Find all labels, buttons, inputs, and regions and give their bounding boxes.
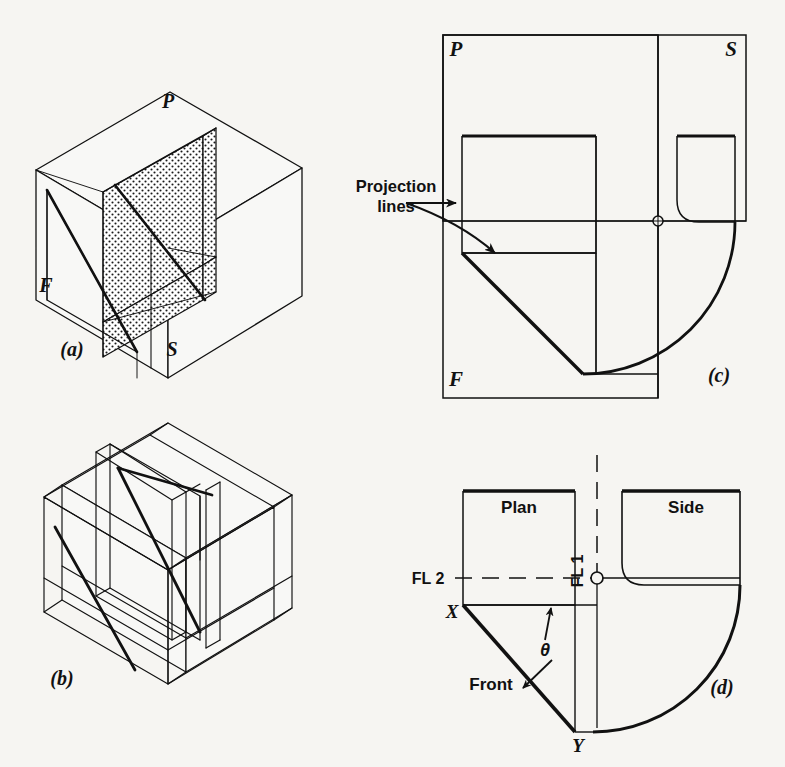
projection-lines-text-2: lines	[377, 197, 415, 215]
projection-lines-text-1: Projection	[356, 177, 437, 195]
page-background	[0, 0, 785, 767]
panel-a-label-F: F	[38, 274, 53, 296]
panel-c-label-S: S	[725, 37, 737, 61]
panel-d-side-label: Side	[668, 498, 704, 517]
panel-d-caption: (d)	[710, 676, 733, 699]
panel-b-caption: (b)	[50, 667, 73, 690]
panel-c-label-P: P	[449, 37, 463, 61]
panel-d-pivot-point	[591, 572, 603, 584]
panel-a-caption: (a)	[60, 338, 83, 361]
panel-c-label-F: F	[448, 367, 463, 391]
panel-d-front-label: Front	[469, 675, 513, 694]
panel-a-label-S: S	[166, 338, 177, 360]
panel-d-plan-label: Plan	[501, 498, 537, 517]
panel-d-fl2-label: FL 2	[412, 570, 445, 587]
technical-drawing-figure: P F S (a)	[0, 0, 785, 767]
panel-d-point-x: X	[445, 601, 460, 622]
stipple-face-edge	[203, 128, 216, 265]
panel-c-caption: (c)	[708, 364, 730, 387]
panel-a-label-P: P	[161, 90, 175, 112]
panel-d-fl1-label: FL 1	[569, 555, 586, 588]
panel-d-theta-label: θ	[540, 640, 550, 660]
